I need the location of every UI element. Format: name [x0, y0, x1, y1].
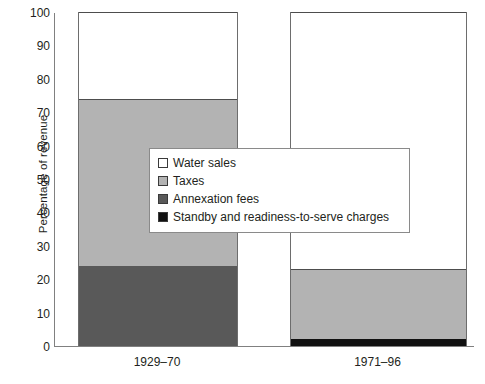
legend-swatch-icon: [158, 212, 168, 222]
legend-item-label: Water sales: [173, 156, 236, 170]
bar-segment: [291, 269, 466, 339]
y-tick-label: 30: [16, 241, 50, 253]
y-tick-label: 70: [16, 107, 50, 119]
y-tick-label: 60: [16, 141, 50, 153]
legend-swatch-icon: [158, 158, 168, 168]
bar-segment: [291, 339, 466, 346]
legend-item: Taxes: [158, 172, 401, 190]
y-tick-label: 10: [16, 308, 50, 320]
y-tick-label: 90: [16, 40, 50, 52]
y-tick-label: 40: [16, 207, 50, 219]
legend-item-label: Standby and readiness-to-serve charges: [173, 210, 389, 224]
y-tick-label: 100: [16, 7, 50, 19]
y-axis-tick-labels: 0102030405060708090100: [12, 0, 50, 384]
legend-item-label: Annexation fees: [173, 192, 259, 206]
legend-swatch-icon: [158, 176, 168, 186]
chart-legend: Water salesTaxesAnnexation feesStandby a…: [149, 148, 410, 233]
legend-item: Annexation fees: [158, 190, 401, 208]
legend-item-label: Taxes: [173, 174, 204, 188]
legend-item: Standby and readiness-to-serve charges: [158, 208, 401, 226]
bar-segment: [79, 266, 237, 346]
y-tick-label: 50: [16, 174, 50, 186]
x-tick-label: 1971–96: [289, 355, 466, 369]
y-tick-label: 80: [16, 74, 50, 86]
x-tick-label: 1929–70: [77, 355, 237, 369]
y-tick-label: 0: [16, 341, 50, 353]
y-tick-label: 20: [16, 274, 50, 286]
legend-swatch-icon: [158, 194, 168, 204]
stacked-bar-chart: Percentage of revenue 010203040506070809…: [0, 0, 485, 384]
x-axis-tick-labels: 1929–701971–96: [54, 355, 474, 379]
bar-segment: [79, 12, 237, 99]
legend-item: Water sales: [158, 154, 401, 172]
